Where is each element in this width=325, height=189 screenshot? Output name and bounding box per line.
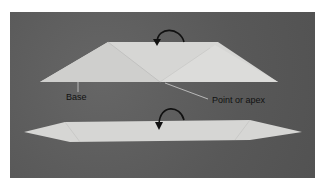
folded-paper-illustration — [10, 12, 315, 178]
apex-leader-line — [165, 83, 208, 99]
base-label: Base — [66, 92, 87, 102]
curved-arrow-icon — [157, 30, 184, 42]
photo: Base Point or apex — [10, 12, 315, 178]
apex-label: Point or apex — [212, 95, 265, 105]
